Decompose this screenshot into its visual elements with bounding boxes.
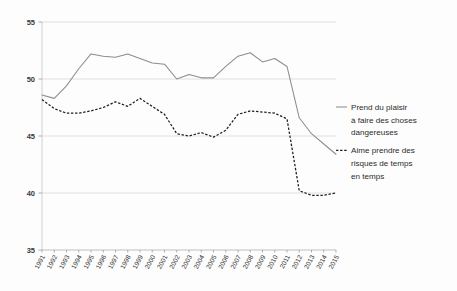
y-tick-label: 40 [27, 189, 35, 198]
legend-label: Prend du plaisir [351, 103, 408, 112]
legend-label: dangereuses [351, 128, 398, 137]
y-tick-label: 55 [27, 18, 35, 27]
legend-label: en temps [351, 172, 384, 181]
line-chart-canvas: 3540455055 19911992199319941995199619971… [0, 0, 457, 291]
x-tick-label: 1991 [33, 253, 46, 270]
x-tick-label: 1999 [131, 253, 144, 270]
x-tick-label: 2008 [241, 253, 254, 270]
x-tick-label: 2006 [217, 253, 230, 270]
x-tick-label: 2013 [303, 253, 316, 270]
legend: Prend du plaisirà faire des chosesdanger… [336, 103, 417, 181]
series-line-aime-prendre-des-risques [42, 98, 336, 195]
series-group [42, 53, 336, 196]
x-tick-label: 1998 [119, 253, 132, 270]
x-tick-label: 2009 [254, 253, 267, 270]
gridlines-group [42, 22, 336, 250]
x-tick-label: 1994 [70, 253, 83, 270]
series-line-prend-du-plaisir [42, 53, 336, 154]
x-tick-label: 2005 [205, 253, 218, 270]
y-axis-group: 3540455055 [27, 18, 42, 255]
x-tick-label: 2003 [180, 253, 193, 270]
x-tick-label: 2014 [315, 253, 328, 270]
y-tick-label: 50 [27, 75, 35, 84]
legend-label: Aime prendre des [351, 146, 415, 155]
legend-label: à faire des choses [351, 116, 417, 125]
x-tick-label: 1997 [107, 253, 120, 270]
chart-figure: 3540455055 19911992199319941995199619971… [0, 0, 457, 291]
legend-label: risques de temps [351, 159, 413, 168]
x-tick-label: 1995 [82, 253, 95, 270]
x-tick-label: 2004 [192, 253, 205, 270]
x-tick-label: 1993 [58, 253, 71, 270]
x-tick-label: 2000 [143, 253, 156, 270]
x-tick-label: 1996 [94, 253, 107, 270]
x-tick-label: 2015 [327, 253, 340, 270]
y-tick-label: 35 [27, 246, 35, 255]
x-tick-label: 2001 [156, 253, 169, 270]
x-tick-label: 1992 [45, 253, 58, 270]
x-axis-group: 1991199219931994199519961997199819992000… [33, 250, 340, 270]
x-tick-label: 2012 [290, 253, 303, 270]
x-tick-label: 2002 [168, 253, 181, 270]
x-tick-label: 2007 [229, 253, 242, 270]
y-tick-label: 45 [27, 132, 35, 141]
x-tick-label: 2010 [266, 253, 279, 270]
